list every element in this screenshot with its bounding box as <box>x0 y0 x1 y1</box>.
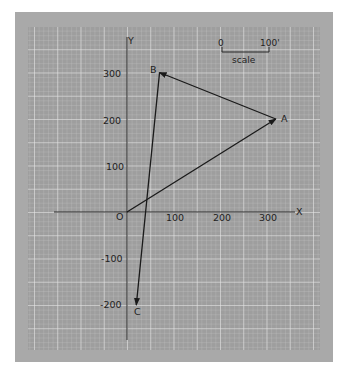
x-tick-200: 200 <box>213 212 231 223</box>
scale-caption: scale <box>232 55 256 65</box>
y-tick-100: 100 <box>106 161 124 172</box>
y-tick-300: 300 <box>103 68 121 79</box>
point-label-b: B <box>150 64 157 75</box>
x-tick-300: 300 <box>259 212 277 223</box>
y-tick-neg200: -200 <box>100 299 122 310</box>
x-axis-label: X <box>296 206 303 217</box>
scale-end-label: 100' <box>260 38 280 48</box>
origin-label: O <box>116 211 123 222</box>
y-tick-neg100: -100 <box>101 253 123 264</box>
y-tick-200: 200 <box>103 115 121 126</box>
point-label-c: C <box>134 306 141 317</box>
y-axis-label: Y <box>127 35 134 46</box>
x-tick-100: 100 <box>166 212 184 223</box>
vector-diagram: X Y O 100 200 300 300 200 100 -100 -200 … <box>0 0 348 379</box>
scale-start-label: 0 <box>218 38 224 48</box>
point-label-a: A <box>281 113 288 124</box>
graph-paper <box>28 27 320 350</box>
